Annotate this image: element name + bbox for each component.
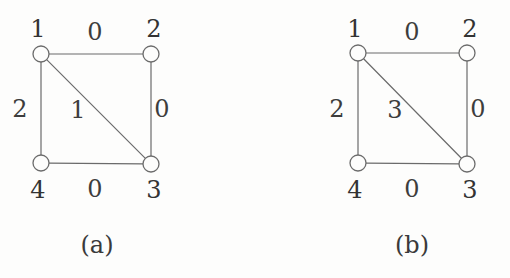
node-label-1: 1 [347,17,362,41]
node-label-2: 2 [146,17,161,41]
edge-weight-n1-n2: 0 [87,20,102,44]
graph-node-4 [350,155,366,171]
graph-node-3 [143,156,159,172]
node-label-3: 3 [146,178,161,202]
edge-weight-n3-n4: 0 [404,177,419,201]
panel-caption-b: (b) [395,233,429,257]
figure-root: 000211234 (a) 000231234 (b) [0,0,510,278]
graph-edge-n3-n4 [366,163,459,164]
node-label-2: 2 [462,17,477,41]
graph-node-1 [350,45,366,61]
graph-panel-a: 000211234 (a) [0,0,255,278]
edge-weight-n1-n3: 1 [70,98,85,122]
edge-weight-n1-n4: 2 [329,97,344,121]
graph-node-3 [459,156,475,172]
edge-weight-n1-n4: 2 [12,97,27,121]
node-label-3: 3 [462,178,477,202]
graph-panel-b: 000231234 (b) [255,0,510,278]
graph-node-2 [143,46,159,62]
edge-weight-n1-n3: 3 [387,98,402,122]
edge-weight-n3-n4: 0 [87,177,102,201]
graph-node-4 [33,155,49,171]
graph-edge-n1-n3 [364,59,462,159]
graph-edge-n1-n3 [47,60,146,159]
edge-weight-n1-n2: 0 [404,20,419,44]
node-label-4: 4 [347,178,362,202]
edge-weight-n2-n3: 0 [470,97,485,121]
graph-edge-n3-n4 [49,163,143,164]
graph-node-2 [459,45,475,61]
graph-node-1 [33,46,49,62]
node-label-4: 4 [30,178,45,202]
edge-weight-n2-n3: 0 [154,97,169,121]
panel-caption-a: (a) [80,233,113,257]
node-label-1: 1 [30,17,45,41]
